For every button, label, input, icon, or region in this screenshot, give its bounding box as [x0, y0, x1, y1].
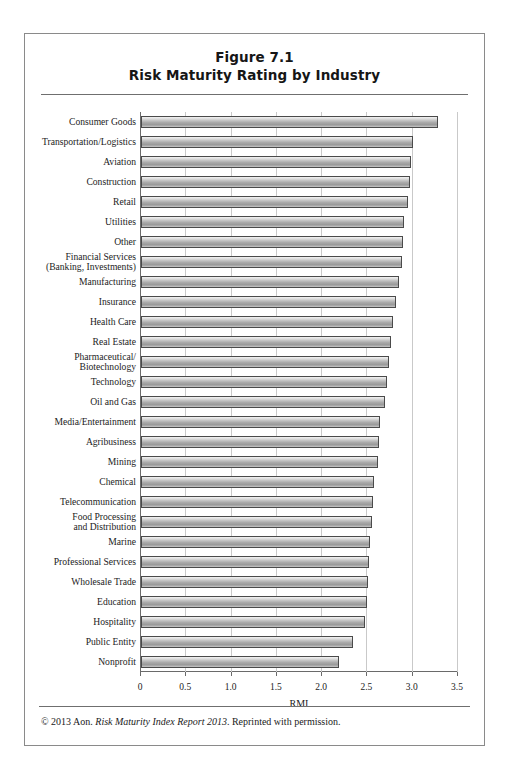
x-axis-tick-label: 2.0 [315, 682, 327, 692]
bar-row: Retail [140, 192, 458, 212]
footer-divider [39, 706, 470, 707]
x-axis-tick-label: 0 [138, 682, 143, 692]
bar [141, 236, 403, 248]
x-axis-tick-label: 1.0 [225, 682, 237, 692]
attribution-suffix: . Reprinted with permission. [227, 716, 341, 727]
bar [141, 596, 367, 608]
bar-row: Professional Services [140, 552, 458, 572]
bar [141, 256, 402, 268]
category-label: Construction [0, 177, 136, 188]
chart: 00.51.01.52.02.53.03.5Consumer GoodsTran… [25, 110, 484, 728]
bar [141, 376, 387, 388]
figure-title-line1: Figure 7.1 [25, 48, 484, 66]
bar-row: Food Processing and Distribution [140, 512, 458, 532]
bar [141, 516, 372, 528]
x-axis-tick [276, 672, 277, 676]
category-label: Telecommunication [0, 497, 136, 508]
bar-row: Education [140, 592, 458, 612]
bar [141, 116, 438, 128]
x-axis-tick [366, 672, 367, 676]
bar-row: Health Care [140, 312, 458, 332]
category-label: Utilities [0, 217, 136, 228]
category-label: Aviation [0, 157, 136, 168]
bar-row: Pharmaceutical/ Biotechnology [140, 352, 458, 372]
bar [141, 616, 365, 628]
bar-row: Transportation/Logistics [140, 132, 458, 152]
bar-row: Financial Services (Banking, Investments… [140, 252, 458, 272]
bar-row: Public Entity [140, 632, 458, 652]
category-label: Mining [0, 457, 136, 468]
category-label: Chemical [0, 477, 136, 488]
bar [141, 356, 389, 368]
bar [141, 416, 380, 428]
category-label: Real Estate [0, 337, 136, 348]
bar [141, 396, 385, 408]
bar-row: Technology [140, 372, 458, 392]
bar [141, 436, 379, 448]
category-label: Financial Services (Banking, Investments… [0, 252, 136, 273]
x-axis-tick [457, 672, 458, 676]
x-axis-tick-label: 0.5 [179, 682, 191, 692]
bar-row: Consumer Goods [140, 112, 458, 132]
bar-row: Utilities [140, 212, 458, 232]
bar-row: Insurance [140, 292, 458, 312]
title-divider [41, 94, 468, 95]
x-axis-tick [231, 672, 232, 676]
bar-row: Mining [140, 452, 458, 472]
x-axis-tick-label: 3.5 [451, 682, 463, 692]
bar [141, 296, 396, 308]
bar [141, 476, 374, 488]
bar-row: Manufacturing [140, 272, 458, 292]
figure-title: Figure 7.1 Risk Maturity Rating by Indus… [25, 34, 484, 84]
bar [141, 196, 408, 208]
bar-row: Wholesale Trade [140, 572, 458, 592]
bar [141, 656, 339, 668]
category-label: Media/Entertainment [0, 417, 136, 428]
plot-area: 00.51.01.52.02.53.03.5Consumer GoodsTran… [140, 112, 458, 672]
bar [141, 456, 378, 468]
x-axis-tick-label: 1.5 [270, 682, 282, 692]
bar-row: Agribusiness [140, 432, 458, 452]
category-label: Agribusiness [0, 437, 136, 448]
category-label: Oil and Gas [0, 397, 136, 408]
category-label: Consumer Goods [0, 117, 136, 128]
category-label: Nonprofit [0, 657, 136, 668]
bar-row: Chemical [140, 472, 458, 492]
category-label: Public Entity [0, 637, 136, 648]
category-label: Professional Services [0, 557, 136, 568]
bar [141, 336, 391, 348]
category-label: Marine [0, 537, 136, 548]
bar [141, 576, 368, 588]
bar-row: Nonprofit [140, 652, 458, 672]
category-label: Manufacturing [0, 277, 136, 288]
figure-container: Figure 7.1 Risk Maturity Rating by Indus… [24, 33, 485, 746]
category-label: Education [0, 597, 136, 608]
bar-row: Aviation [140, 152, 458, 172]
x-axis-tick-label: 3.0 [406, 682, 418, 692]
category-label: Hospitality [0, 617, 136, 628]
bar-row: Construction [140, 172, 458, 192]
attribution-text: © 2013 Aon. Risk Maturity Index Report 2… [41, 716, 341, 727]
bar-row: Other [140, 232, 458, 252]
x-axis-tick [412, 672, 413, 676]
category-label: Health Care [0, 317, 136, 328]
bar-row: Media/Entertainment [140, 412, 458, 432]
category-label: Other [0, 237, 136, 248]
x-axis-tick-label: 2.5 [360, 682, 372, 692]
bar [141, 316, 393, 328]
attribution-prefix: © 2013 Aon. [41, 716, 95, 727]
attribution-source-title: Risk Maturity Index Report 2013 [95, 716, 227, 727]
category-label: Insurance [0, 297, 136, 308]
bar-row: Telecommunication [140, 492, 458, 512]
bar [141, 156, 411, 168]
x-axis-tick [140, 672, 141, 676]
bar [141, 176, 410, 188]
figure-title-line2: Risk Maturity Rating by Industry [25, 66, 484, 84]
bar [141, 216, 404, 228]
category-label: Transportation/Logistics [0, 137, 136, 148]
category-label: Wholesale Trade [0, 577, 136, 588]
bar [141, 496, 373, 508]
bar-row: Oil and Gas [140, 392, 458, 412]
x-axis-title: RMI [140, 698, 458, 709]
bar [141, 276, 399, 288]
